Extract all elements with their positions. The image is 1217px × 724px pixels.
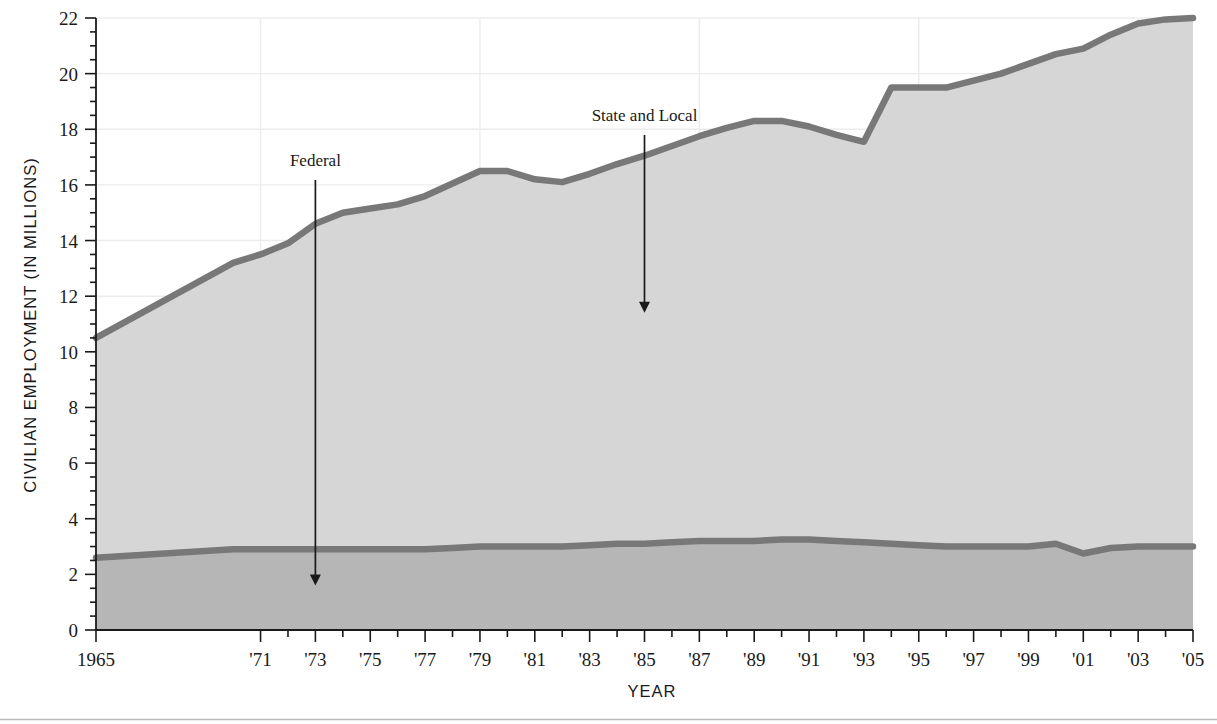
- x-axis-tick-label: 1965: [77, 649, 115, 670]
- y-axis-tick-label: 16: [59, 175, 78, 196]
- x-axis-tick-label: '95: [908, 649, 930, 670]
- annotation-label: Federal: [290, 151, 341, 170]
- x-axis-tick-label: '97: [962, 649, 984, 670]
- x-axis-tick-label: '73: [304, 649, 326, 670]
- x-axis-tick-label: '85: [633, 649, 655, 670]
- y-axis-tick-label: 18: [59, 119, 78, 140]
- x-axis-tick-label: '83: [578, 649, 600, 670]
- y-axis-tick-label: 14: [59, 231, 79, 252]
- x-axis-title: YEAR: [628, 682, 677, 700]
- y-axis-tick-label: 2: [69, 564, 79, 585]
- y-axis-tick-label: 0: [69, 620, 79, 641]
- y-axis-tick-label: 12: [59, 286, 78, 307]
- x-axis-tick-label: '77: [414, 649, 436, 670]
- y-axis-title: CIVILIAN EMPLOYMENT (IN MILLIONS): [21, 157, 39, 492]
- y-axis-tick-label: 6: [69, 453, 79, 474]
- x-axis-tick-label: '89: [743, 649, 765, 670]
- chart-figure: 0246810121416182022 1965'71'73'75'77'79'…: [0, 0, 1217, 724]
- x-axis-tick-label: '81: [524, 649, 546, 670]
- annotation-label: State and Local: [592, 106, 698, 125]
- x-axis-tick-label: '03: [1127, 649, 1149, 670]
- y-axis-tick-label: 22: [59, 8, 78, 29]
- x-axis-tick-label: '99: [1017, 649, 1039, 670]
- x-axis-tick-label: '05: [1182, 649, 1204, 670]
- x-axis-tick-label: '93: [853, 649, 875, 670]
- y-axis-tick-label: 8: [69, 397, 79, 418]
- x-axis-tick-label: '71: [249, 649, 271, 670]
- x-axis-tick-label: '91: [798, 649, 820, 670]
- y-axis-tick-label: 10: [59, 342, 78, 363]
- area-chart: 0246810121416182022 1965'71'73'75'77'79'…: [0, 0, 1217, 724]
- x-axis-tick-label: '79: [469, 649, 491, 670]
- x-axis-tick-label: '01: [1072, 649, 1094, 670]
- x-axis-tick-label: '87: [688, 649, 710, 670]
- x-axis-tick-label: '75: [359, 649, 381, 670]
- area-band-federal: [96, 540, 1193, 630]
- y-axis-tick-label: 4: [69, 509, 79, 530]
- y-axis-tick-label: 20: [59, 64, 78, 85]
